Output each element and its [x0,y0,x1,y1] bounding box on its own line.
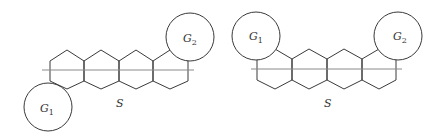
right-figure [232,12,422,89]
label-s: S [324,97,332,110]
diagram-canvas: G1 G2 S G1 G2 S [0,0,443,134]
label-s: S [116,97,124,110]
